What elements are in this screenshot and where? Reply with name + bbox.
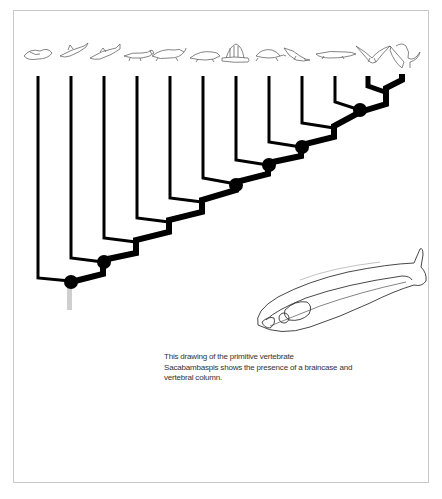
caption-line-3: vertebral column. [164,373,364,384]
caption-line-2: Sacabambaspis shows the presence of a br… [164,363,364,374]
sacabambaspis-illustration [0,0,442,499]
figure-caption: This drawing of the primitive vertebrate… [164,352,364,384]
caption-line-1: This drawing of the primitive vertebrate [164,352,364,363]
